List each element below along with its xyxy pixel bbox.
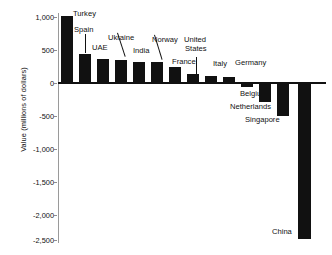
y-tick-label-1000: 1,000: [20, 14, 54, 21]
bar-india: [133, 62, 145, 83]
bar-united-states: [187, 74, 199, 83]
data-label-turkey: Turkey: [73, 10, 96, 18]
bar-belgium: [241, 83, 253, 87]
data-label-germany: Germany: [235, 59, 266, 67]
data-label-belgium: Belgium: [240, 90, 267, 98]
data-label-ukraine: Ukraine: [108, 34, 134, 42]
data-label-italy: Italy: [213, 60, 227, 68]
data-label-singapore: Singapore: [245, 116, 280, 124]
y-tickmark-1000: [54, 17, 57, 18]
y-tickmark-n2000: [54, 215, 57, 216]
y-tickmark-n1000: [54, 149, 57, 150]
data-label-china: China: [272, 228, 292, 236]
y-tick-label-n500: -500: [20, 113, 54, 120]
bar-france: [169, 67, 181, 83]
leader-line-united-states: [196, 57, 197, 74]
y-tickmark-0: [54, 83, 57, 84]
bar-italy: [205, 76, 217, 83]
data-label-united-states-line1: United: [184, 36, 206, 44]
data-label-norway: Norway: [152, 36, 178, 44]
data-label-united-states-line2: States: [185, 45, 207, 53]
y-tick-label-n1000: -1,000: [20, 146, 54, 153]
y-tickmark-500: [54, 50, 57, 51]
y-tick-label-n2000: -2,000: [20, 212, 54, 219]
y-tickmark-n2500: [54, 240, 57, 241]
bar-ukraine: [115, 60, 127, 83]
bar-chart: Value (millions of dollars) 1,000 500 0 …: [0, 0, 332, 255]
data-label-india: India: [133, 47, 149, 55]
y-tick-label-500: 500: [20, 47, 54, 54]
bar-spain: [79, 54, 91, 83]
y-tickmark-n1500: [54, 182, 57, 183]
y-tick-label-n2500: -2,500: [20, 237, 54, 244]
data-label-spain: Spain: [74, 26, 93, 34]
bar-china: [298, 83, 311, 239]
y-axis-ticks: 1,000 500 0 -500 -1,000 -1,500 -2,000 -2…: [18, 0, 54, 255]
bar-uae: [97, 59, 109, 83]
data-label-uae: UAE: [92, 44, 108, 52]
bar-germany: [223, 77, 235, 83]
bar-singapore: [277, 83, 289, 116]
y-tick-label-0: 0: [20, 80, 54, 87]
y-tick-label-n1500: -1,500: [20, 179, 54, 186]
leader-line-spain: [85, 34, 86, 53]
y-tickmark-n500: [54, 116, 57, 117]
data-label-france: France: [172, 58, 196, 66]
bar-norway: [151, 62, 163, 83]
bar-turkey: [61, 16, 73, 83]
data-label-netherlands: Netherlands: [230, 103, 271, 111]
